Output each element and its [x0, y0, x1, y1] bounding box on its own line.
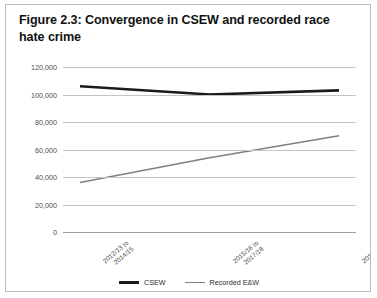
figure-title: Figure 2.3: Convergence in CSEW and reco… [19, 12, 349, 45]
y-axis-tick-label: 60,000 [35, 145, 57, 154]
y-axis-tick-label: 100,000 [31, 90, 57, 99]
legend-line-icon [119, 281, 139, 284]
gridline-100000 [63, 95, 356, 96]
series-line-csew [80, 86, 339, 94]
y-axis-tick-label: 120,000 [31, 63, 57, 72]
legend-label: CSEW [144, 278, 166, 287]
gridline-40000 [63, 177, 356, 178]
x-axis-tick-label: 2015/16 to2017/18 [231, 239, 266, 272]
y-axis-tick-label: 40,000 [35, 173, 57, 182]
x-axis-labels: 2012/13 to2014/152015/16 to2017/182017/1… [63, 232, 356, 282]
y-axis-tick-label: 0 [53, 228, 57, 237]
legend-item[interactable]: CSEW [119, 278, 166, 287]
figure-container: Figure 2.3: Convergence in CSEW and reco… [5, 4, 371, 292]
gridline-120000 [63, 67, 356, 68]
x-axis-tick-line1: 2017/18 to [360, 239, 371, 265]
y-axis-tick-label: 80,000 [35, 118, 57, 127]
legend-line-icon [185, 282, 205, 284]
legend-item[interactable]: Recorded E&W [185, 278, 260, 287]
legend-label: Recorded E&W [210, 278, 260, 287]
series-line-recorded-e-w [80, 136, 339, 183]
chart-legend: CSEWRecorded E&W [6, 278, 371, 287]
gridline-60000 [63, 150, 356, 151]
gridline-80000 [63, 122, 356, 123]
x-axis-tick-label: 2017/18 to2019/20 [360, 239, 371, 272]
gridline-20000 [63, 205, 356, 206]
chart-plot-area: 020,00040,00060,00080,000100,000120,000 … [6, 55, 371, 292]
y-axis-tick-label: 20,000 [35, 200, 57, 209]
chart-grid: 020,00040,00060,00080,000100,000120,000 [63, 67, 356, 232]
x-axis-tick-label: 2012/13 to2014/15 [101, 239, 136, 272]
